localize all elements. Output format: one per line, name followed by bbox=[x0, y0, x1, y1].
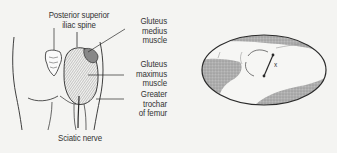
leader-line-gluteus-medius bbox=[88, 29, 125, 52]
label-sciatic-nerve: Sciatic nerve bbox=[43, 134, 117, 144]
landmark-line bbox=[264, 55, 273, 76]
shaded-region-left bbox=[200, 59, 242, 94]
landmark-dot-top bbox=[272, 54, 275, 57]
label-greater-trochanter: Greater trochar of femur bbox=[122, 90, 167, 119]
label-posterior-superior-iliac-spine: Posterior superior iliac spine bbox=[41, 11, 116, 30]
shaded-region-top bbox=[215, 34, 316, 50]
injection-site-marker: x bbox=[274, 60, 277, 70]
label-gluteus-medius: Gluteus medius muscle bbox=[122, 17, 167, 46]
inset-oval-border bbox=[202, 35, 326, 105]
label-gluteus-maximus: Gluteus maximus muscle bbox=[122, 60, 167, 89]
shaded-region-bottom bbox=[250, 76, 330, 110]
body-outline-left bbox=[13, 37, 22, 130]
landmark-dot-bottom bbox=[263, 75, 266, 78]
